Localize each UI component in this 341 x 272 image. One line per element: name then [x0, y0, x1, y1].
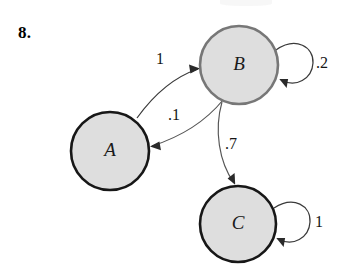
- edge-a-to-b-label: 1: [156, 50, 164, 67]
- node-b[interactable]: B: [200, 26, 278, 104]
- edge-b-to-a-label: .1: [168, 106, 180, 123]
- edge-c-self-loop: 1: [274, 202, 323, 247]
- edge-c-self-loop-path: [274, 202, 310, 242]
- node-b-label: B: [233, 53, 245, 74]
- state-diagram: 1 .1 .2 .7 1 A: [0, 0, 341, 272]
- edge-c-self-loop-label: 1: [315, 213, 323, 230]
- edge-b-to-a-arrowhead: [150, 142, 161, 151]
- node-c[interactable]: C: [200, 186, 276, 262]
- edge-c-self-loop-arrowhead: [276, 238, 285, 247]
- edge-b-self-loop: .2: [276, 44, 328, 88]
- node-a[interactable]: A: [71, 112, 149, 190]
- edge-b-to-a-path: [152, 100, 223, 146]
- edge-b-self-loop-label: .2: [316, 54, 328, 71]
- node-c-label: C: [232, 212, 245, 233]
- figure-canvas: 8. 1 .1 .2 .7 1: [0, 0, 341, 272]
- edge-b-self-loop-arrowhead: [279, 79, 288, 88]
- edge-b-to-c-label: .7: [225, 135, 237, 152]
- edge-b-to-a: .1: [150, 100, 223, 150]
- node-a-label: A: [102, 139, 116, 160]
- edge-b-self-loop-path: [276, 44, 313, 83]
- edge-a-to-b-arrowhead: [189, 65, 200, 74]
- edge-b-to-c: .7: [218, 102, 237, 185]
